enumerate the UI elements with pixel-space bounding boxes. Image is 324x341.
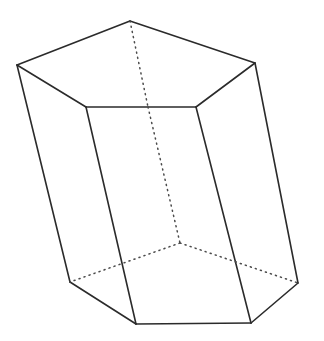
- bottom-edge-frontleft-frontright: [136, 323, 251, 324]
- pentagonal-prism-figure: [0, 0, 324, 341]
